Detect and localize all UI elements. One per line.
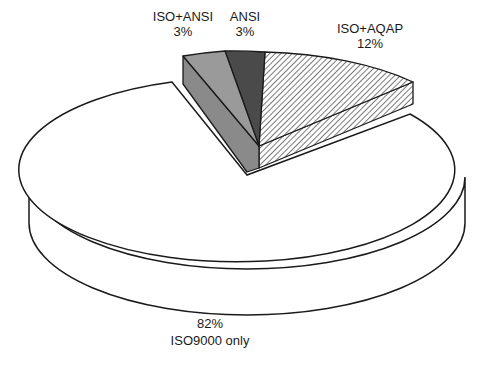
- label-iso9000-pct: 82%: [140, 316, 280, 331]
- label-iso9000: 82% ISO9000 only: [140, 316, 280, 348]
- label-iso-aqap-name: ISO+AQAP: [320, 21, 420, 36]
- label-iso-ansi: ISO+ANSI 3%: [143, 9, 223, 39]
- pie-chart: [0, 0, 486, 366]
- label-iso-ansi-name: ISO+ANSI: [143, 9, 223, 24]
- label-ansi: ANSI 3%: [220, 9, 270, 39]
- label-iso9000-name: ISO9000 only: [140, 333, 280, 348]
- label-iso-aqap: ISO+AQAP 12%: [320, 21, 420, 51]
- label-ansi-name: ANSI: [220, 9, 270, 24]
- label-ansi-pct: 3%: [220, 24, 270, 39]
- label-iso-aqap-pct: 12%: [320, 36, 420, 51]
- label-iso-ansi-pct: 3%: [143, 24, 223, 39]
